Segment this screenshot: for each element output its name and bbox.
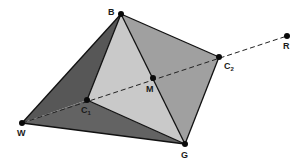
label-G: G xyxy=(181,150,188,160)
point-W-icon xyxy=(19,120,25,126)
tetrahedron-diagram: B R C2 M C1 W G xyxy=(0,0,304,165)
label-M: M xyxy=(146,84,154,94)
label-R: R xyxy=(283,41,290,51)
point-B-icon xyxy=(118,11,124,17)
point-C2-icon xyxy=(216,54,222,60)
diagram-canvas: B R C2 M C1 W G xyxy=(0,0,304,165)
label-B: B xyxy=(108,7,115,17)
point-C1-icon xyxy=(84,97,90,103)
faces-group xyxy=(22,14,219,144)
point-R-icon xyxy=(284,33,290,39)
point-G-icon xyxy=(182,141,188,147)
point-M-icon xyxy=(150,75,156,81)
label-C2: C2 xyxy=(224,61,235,72)
label-W: W xyxy=(17,128,26,138)
